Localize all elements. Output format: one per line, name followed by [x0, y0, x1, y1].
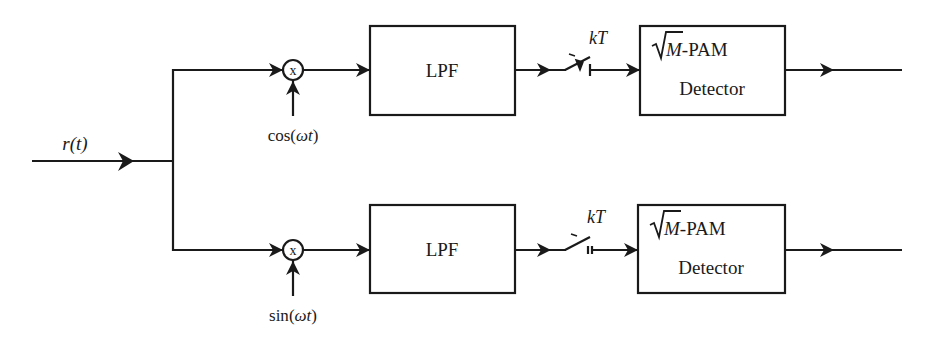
mixer-in-phase: x — [283, 60, 303, 80]
mixer-symbol: x — [290, 243, 297, 258]
carrier-label-cos: cos(ωt) — [268, 126, 319, 145]
sampler-switch-top: kT — [565, 28, 609, 76]
detector-label-1: M-PAM — [665, 39, 728, 60]
carrier-label-sin: sin(ωt) — [269, 306, 317, 325]
sampler-label: kT — [587, 207, 607, 227]
lpf-label: LPF — [426, 239, 459, 260]
pam-detector-bottom: M-PAM Detector — [638, 205, 785, 293]
lpf-block-top: LPF — [370, 26, 515, 115]
branch-quadrature: x sin(ωt) LPF kT M-PAM Detector — [172, 205, 902, 325]
pam-detector-top: M-PAM Detector — [640, 26, 785, 115]
sampler-label: kT — [589, 28, 609, 48]
detector-label-1: M-PAM — [663, 218, 726, 239]
input-signal: r(t) — [32, 133, 174, 171]
mixer-quadrature: x — [283, 240, 303, 260]
lpf-block-bottom: LPF — [370, 205, 515, 293]
sampler-switch-bottom: kT — [565, 207, 607, 254]
qam-receiver-diagram: r(t) x cos(ωt) LPF kT — [0, 0, 928, 343]
lpf-label: LPF — [426, 60, 459, 81]
mixer-symbol: x — [290, 63, 297, 78]
branch-in-phase: x cos(ωt) LPF kT M-PAM De — [172, 26, 902, 145]
input-label: r(t) — [62, 133, 87, 155]
detector-label-2: Detector — [678, 257, 744, 278]
detector-label-2: Detector — [679, 78, 745, 99]
